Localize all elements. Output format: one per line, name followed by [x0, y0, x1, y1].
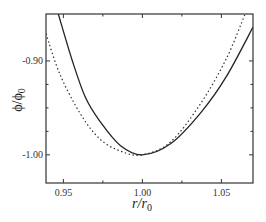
x-tick-label: 1.05 — [213, 187, 231, 198]
line-chart: 0.951.001.05-0.90-1.00 r/r0 ϕ/ϕ0 — [0, 0, 266, 222]
series-dotted-line — [46, 14, 245, 155]
y-axis-label: ϕ/ϕ0 — [10, 88, 27, 112]
x-axis-label-subscript: 0 — [147, 202, 152, 213]
y-tick-label: -1.00 — [22, 149, 43, 160]
x-tick-label: 0.95 — [55, 187, 73, 198]
plot-frame — [46, 14, 253, 183]
axis-ticks — [46, 14, 253, 183]
tick-labels: 0.951.001.05-0.90-1.00 — [22, 55, 230, 198]
series-solid-line — [58, 14, 253, 155]
y-tick-label: -0.90 — [22, 55, 43, 66]
y-axis-label-subscript: 0 — [16, 88, 27, 93]
plot-lines — [46, 14, 253, 155]
x-axis-label: r/r0 — [132, 196, 152, 213]
